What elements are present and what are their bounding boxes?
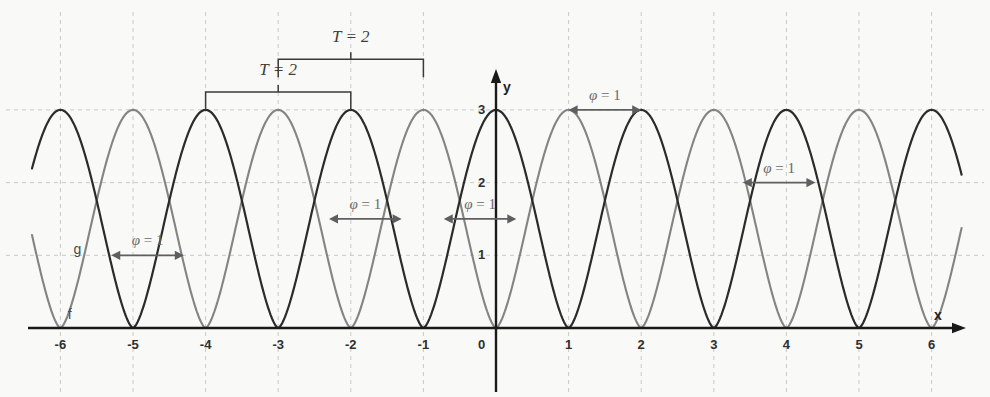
x-tick-label-1: 1: [565, 338, 572, 351]
label-g: g: [73, 242, 81, 256]
phase-arrow-5-label: φ = 1: [763, 161, 795, 176]
phase-arrow-1: [111, 251, 184, 260]
arrowhead-left: [111, 251, 120, 260]
phase-arrow-1-label: φ = 1: [132, 233, 164, 248]
x-axis-arrowhead: [952, 323, 966, 333]
arrowhead-right: [806, 178, 815, 187]
x-tick-label-neg1: -1: [418, 338, 430, 351]
x-tick-label-3: 3: [710, 338, 717, 351]
x-tick-label-2: 2: [638, 338, 645, 351]
y-tick-label-3: 3: [478, 103, 485, 116]
arrowhead-left: [444, 214, 453, 223]
label-f: f: [68, 307, 72, 321]
x-tick-label-neg6: -6: [55, 338, 67, 351]
x-tick-label-neg4: -4: [200, 338, 212, 351]
arrowhead-right: [393, 214, 402, 223]
y-axis-arrowhead: [491, 69, 501, 83]
x-tick-label-neg2: -2: [345, 338, 357, 351]
x-axis-label: x: [934, 308, 942, 322]
y-tick-label-1: 1: [478, 248, 485, 261]
arrowhead-left: [329, 214, 338, 223]
period-bracket-lower: [206, 85, 351, 110]
phase-arrow-4-label: φ = 1: [589, 88, 621, 103]
phase-arrow-3-label: φ = 1: [464, 197, 496, 212]
phase-arrow-2-label: φ = 1: [349, 197, 381, 212]
y-axis-label: y: [503, 80, 511, 94]
x-tick-label-neg5: -5: [127, 338, 139, 351]
x-tick-label-5: 5: [855, 338, 862, 351]
phase-arrow-4: [569, 105, 642, 114]
period-bracket-upper: [278, 52, 423, 77]
graph-figure: -6-5-4-3-2-10123456123xygfT = 2T = 2φ = …: [0, 0, 990, 397]
period-bracket-lower-label: T = 2: [259, 61, 297, 78]
x-tick-label-6: 6: [928, 338, 935, 351]
arrowhead-right: [632, 105, 641, 114]
x-tick-label-neg3: -3: [272, 338, 284, 351]
x-tick-label-0: 0: [478, 338, 485, 351]
arrowhead-left: [569, 105, 578, 114]
period-bracket-upper-label: T = 2: [332, 28, 370, 45]
arrowhead-right: [507, 214, 516, 223]
x-tick-label-4: 4: [783, 338, 790, 351]
y-tick-label-2: 2: [478, 176, 485, 189]
